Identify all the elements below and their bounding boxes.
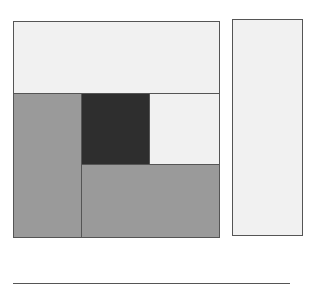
left-column xyxy=(13,93,82,238)
baseline-rule xyxy=(13,283,290,284)
bottom-panel xyxy=(81,164,220,238)
center-dark-square xyxy=(81,93,150,165)
side-panel xyxy=(232,19,303,236)
right-light-square xyxy=(149,93,220,165)
top-panel xyxy=(13,21,220,94)
